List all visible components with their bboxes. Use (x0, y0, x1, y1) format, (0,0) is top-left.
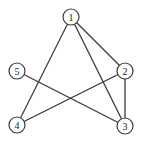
node-4: 4 (9, 117, 25, 133)
node-1: 1 (63, 9, 79, 25)
node-label: 2 (123, 66, 128, 77)
node-label: 3 (123, 121, 128, 132)
edges-layer (17, 17, 125, 126)
node-5: 5 (9, 63, 25, 79)
node-label: 1 (69, 12, 74, 23)
node-2: 2 (117, 63, 133, 79)
node-label: 4 (15, 120, 20, 131)
node-3: 3 (117, 118, 133, 134)
nodes-layer: 12345 (9, 9, 133, 134)
graph-diagram: 12345 (0, 0, 143, 144)
edge-1-2 (71, 17, 125, 71)
node-label: 5 (15, 66, 20, 77)
